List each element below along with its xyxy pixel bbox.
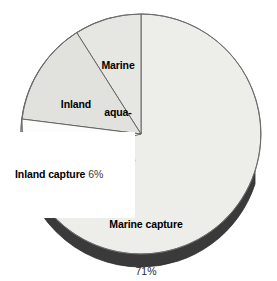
pie-chart: Marine aqua- culture 9% Inland aquacultu… <box>0 0 277 281</box>
pie-chart-canvas <box>0 0 277 281</box>
